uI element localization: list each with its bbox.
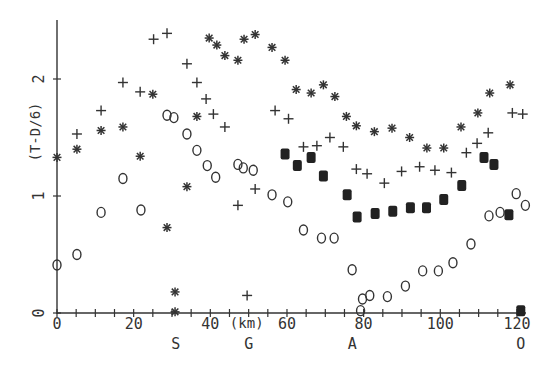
circle-point-icon xyxy=(249,165,257,175)
plus-point-icon xyxy=(208,109,218,119)
circle-point-icon xyxy=(212,172,220,182)
square-point-icon xyxy=(489,159,498,170)
asterisk-point-icon xyxy=(506,80,515,89)
asterisk-point-icon xyxy=(220,51,229,60)
asterisk-point-icon xyxy=(388,124,397,133)
x-tick-label: 20 xyxy=(125,315,143,333)
square-point-icon xyxy=(479,152,488,163)
x-tick-label: 0 xyxy=(52,315,61,333)
asterisk-point-icon xyxy=(307,89,316,98)
plus-point-icon xyxy=(201,94,211,104)
plus-point-icon xyxy=(325,133,335,143)
plus-point-icon xyxy=(182,59,192,69)
plus-point-icon xyxy=(118,78,128,88)
asterisk-point-icon xyxy=(136,152,145,161)
asterisk-point-icon xyxy=(148,90,157,99)
circle-point-icon xyxy=(401,281,409,291)
series-filled-square xyxy=(281,148,526,316)
circle-point-icon xyxy=(419,266,427,276)
square-point-icon xyxy=(388,206,397,217)
asterisk-point-icon xyxy=(171,307,180,316)
circle-point-icon xyxy=(449,258,457,268)
asterisk-point-icon xyxy=(205,34,214,43)
square-point-icon xyxy=(371,208,380,219)
circle-point-icon xyxy=(137,205,145,215)
asterisk-point-icon xyxy=(292,85,301,94)
asterisk-point-icon xyxy=(192,112,201,121)
plus-point-icon xyxy=(415,162,425,172)
site-markers: SGAO xyxy=(171,335,525,353)
asterisk-point-icon xyxy=(171,287,180,296)
plus-point-icon xyxy=(192,78,202,88)
circle-point-icon xyxy=(299,225,307,235)
plus-point-icon xyxy=(162,28,172,38)
square-point-icon xyxy=(504,209,513,220)
plus-point-icon xyxy=(135,87,145,97)
circle-point-icon xyxy=(97,207,105,217)
plus-point-icon xyxy=(149,34,159,44)
square-point-icon xyxy=(293,160,302,171)
asterisk-point-icon xyxy=(405,133,414,142)
circle-point-icon xyxy=(330,233,338,243)
x-tick-label: 40 xyxy=(201,315,219,333)
asterisk-point-icon xyxy=(268,43,277,52)
square-point-icon xyxy=(343,189,352,200)
asterisk-point-icon xyxy=(342,112,351,121)
circle-point-icon xyxy=(366,290,374,300)
plus-point-icon xyxy=(233,200,243,210)
plus-point-icon xyxy=(362,169,372,179)
circle-point-icon xyxy=(268,190,276,200)
plus-point-icon xyxy=(338,142,348,152)
site-label-s: S xyxy=(171,335,180,353)
circle-point-icon xyxy=(317,233,325,243)
square-point-icon xyxy=(406,202,415,213)
plus-point-icon xyxy=(72,129,82,139)
y-tick-label: 2 xyxy=(30,74,48,83)
asterisk-point-icon xyxy=(251,30,260,39)
asterisk-point-icon xyxy=(72,145,81,154)
plus-point-icon xyxy=(298,142,308,152)
plus-point-icon xyxy=(507,108,517,118)
asterisk-point-icon xyxy=(97,126,106,135)
asterisk-point-icon xyxy=(240,35,249,44)
plus-point-icon xyxy=(312,141,322,151)
plus-point-icon xyxy=(96,106,106,116)
asterisk-point-icon xyxy=(118,122,127,131)
x-tick-label: 60 xyxy=(278,315,296,333)
square-point-icon xyxy=(307,152,316,163)
plus-point-icon xyxy=(461,148,471,158)
circle-point-icon xyxy=(383,292,391,302)
square-point-icon xyxy=(457,180,466,191)
circle-point-icon xyxy=(521,200,529,210)
x-tick-label: 100 xyxy=(427,315,454,333)
square-point-icon xyxy=(439,194,448,205)
x-tick-label: 80 xyxy=(355,315,373,333)
square-point-icon xyxy=(516,305,525,316)
plus-point-icon xyxy=(446,168,456,178)
circle-point-icon xyxy=(512,189,520,199)
plus-point-icon xyxy=(270,106,280,116)
circle-point-icon xyxy=(496,207,504,217)
plus-point-icon xyxy=(430,165,440,175)
asterisk-point-icon xyxy=(233,56,242,65)
y-axis-title: (T-D/6) xyxy=(27,102,43,161)
asterisk-point-icon xyxy=(212,41,221,50)
site-label-o: O xyxy=(516,335,525,353)
series-open-circle xyxy=(53,110,529,315)
plus-point-icon xyxy=(220,122,230,132)
circle-point-icon xyxy=(434,266,442,276)
plus-point-icon xyxy=(250,184,260,194)
asterisk-point-icon xyxy=(422,144,431,153)
square-point-icon xyxy=(281,148,290,159)
circle-point-icon xyxy=(203,161,211,171)
data-points xyxy=(53,28,530,316)
asterisk-point-icon xyxy=(319,80,328,89)
x-axis-title: (km) xyxy=(230,315,264,331)
y-tick-label: 0 xyxy=(30,308,48,317)
square-point-icon xyxy=(319,171,328,182)
asterisk-point-icon xyxy=(281,56,290,65)
plus-point-icon xyxy=(242,290,252,300)
plus-point-icon xyxy=(518,109,528,119)
asterisk-point-icon xyxy=(485,89,494,98)
circle-point-icon xyxy=(183,129,191,139)
